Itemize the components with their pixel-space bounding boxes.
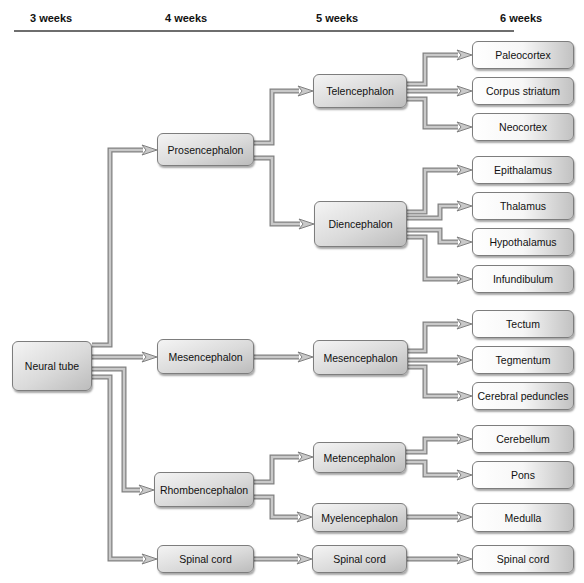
arrowhead-icon — [457, 237, 472, 247]
arrow-rhombencephalon-to-metencephalon — [254, 452, 313, 482]
node-thalamus: Thalamus — [472, 192, 574, 220]
arrowhead-icon — [457, 554, 472, 564]
arrowhead-icon — [457, 122, 472, 132]
node-medulla: Medulla — [472, 503, 574, 532]
node-hypothalamus: Hypothalamus — [472, 228, 574, 256]
node-label: Rhombencephalon — [160, 484, 248, 496]
node-label: Spinal cord — [497, 553, 550, 565]
node-prosencephalon: Prosencephalon — [157, 133, 254, 166]
node-cerebral-peduncles: Cerebral peduncles — [472, 382, 574, 410]
node-label: Metencephalon — [324, 452, 396, 464]
node-neocortex: Neocortex — [472, 113, 574, 141]
arrowhead-icon — [297, 512, 312, 522]
node-label: Prosencephalon — [168, 144, 244, 156]
arrow-neural-tube-to-prosencephalon — [92, 145, 157, 345]
node-label: Mesencephalon — [168, 351, 242, 363]
node-label: Infundibulum — [493, 273, 553, 285]
arrowhead-icon — [457, 470, 472, 480]
node-label: Pons — [511, 469, 535, 481]
arrowhead-icon — [142, 554, 157, 564]
arrowhead-icon — [139, 485, 154, 495]
node-spinal-cord-6: Spinal cord — [472, 545, 574, 573]
arrow-mesencephalon-5-to-tectum — [408, 319, 472, 351]
arrowhead-icon — [299, 219, 314, 229]
arrowhead-icon — [457, 434, 472, 444]
arrowhead-icon — [457, 86, 472, 96]
node-label: Neocortex — [499, 121, 547, 133]
arrow-telencephalon-to-paleocortex — [407, 50, 472, 84]
arrow-prosencephalon-to-diencephalon — [254, 158, 314, 229]
arrow-mesencephalon-5-to-cerebral-peduncles — [408, 367, 472, 401]
node-rhombencephalon: Rhombencephalon — [154, 472, 254, 507]
node-label: Medulla — [505, 512, 542, 524]
node-label: Spinal cord — [333, 553, 386, 565]
node-neural-tube: Neural tube — [12, 341, 92, 391]
node-label: Cerebral peduncles — [477, 390, 568, 402]
node-paleocortex: Paleocortex — [472, 41, 574, 69]
node-label: Corpus striatum — [486, 85, 560, 97]
node-label: Neural tube — [25, 360, 79, 372]
node-label: Cerebellum — [496, 433, 550, 445]
arrowhead-icon — [457, 355, 472, 365]
node-label: Tegmentum — [496, 354, 551, 366]
node-telencephalon: Telencephalon — [313, 74, 407, 108]
arrow-neural-tube-to-rhombencephalon — [92, 369, 154, 495]
arrowhead-icon — [457, 319, 472, 329]
arrow-metencephalon-to-cerebellum — [406, 434, 472, 452]
arrow-rhombencephalon-to-myelencephalon — [254, 497, 312, 522]
node-metencephalon: Metencephalon — [313, 442, 406, 473]
arrow-prosencephalon-to-telencephalon — [254, 86, 313, 143]
node-label: Diencephalon — [328, 218, 392, 230]
node-myelencephalon: Myelencephalon — [312, 503, 407, 532]
node-label: Hypothalamus — [489, 236, 556, 248]
arrow-mesencephalon-5-to-tegmentum — [408, 355, 472, 365]
arrowhead-icon — [298, 452, 313, 462]
node-label: Tectum — [506, 318, 540, 330]
arrowhead-icon — [457, 165, 472, 175]
arrow-spinal-cord-4-to-spinal-cord-5 — [254, 554, 312, 564]
node-cerebellum: Cerebellum — [472, 425, 574, 453]
node-tectum: Tectum — [472, 310, 574, 338]
node-label: Spinal cord — [179, 553, 232, 565]
arrow-telencephalon-to-corpus-striatum — [407, 86, 472, 96]
arrowhead-icon — [457, 201, 472, 211]
arrow-telencephalon-to-neocortex — [407, 99, 472, 132]
node-label: Mesencephalon — [323, 352, 397, 364]
node-label: Epithalamus — [494, 164, 552, 176]
arrowhead-icon — [142, 352, 157, 362]
node-label: Thalamus — [500, 200, 546, 212]
arrowhead-icon — [457, 274, 472, 284]
node-label: Paleocortex — [495, 49, 550, 61]
arrow-spinal-cord-5-to-spinal-cord-6 — [407, 554, 472, 564]
node-mesencephalon-4: Mesencephalon — [157, 339, 254, 374]
node-infundibulum: Infundibulum — [472, 265, 574, 293]
node-pons: Pons — [472, 461, 574, 489]
arrow-metencephalon-to-pons — [406, 462, 472, 480]
node-tegmentum: Tegmentum — [472, 346, 574, 374]
node-spinal-cord-5: Spinal cord — [312, 545, 407, 573]
arrow-mesencephalon-4-to-mesencephalon-5 — [254, 352, 313, 362]
node-label: Myelencephalon — [321, 512, 397, 524]
node-corpus-striatum: Corpus striatum — [472, 77, 574, 105]
node-label: Telencephalon — [326, 85, 394, 97]
arrowhead-icon — [298, 352, 313, 362]
arrow-neural-tube-to-mesencephalon-4 — [92, 352, 157, 362]
arrowhead-icon — [457, 391, 472, 401]
node-mesencephalon-5: Mesencephalon — [313, 340, 408, 375]
arrowhead-icon — [457, 50, 472, 60]
arrowhead-icon — [298, 86, 313, 96]
node-diencephalon: Diencephalon — [314, 201, 407, 247]
node-spinal-cord-4: Spinal cord — [157, 545, 254, 573]
node-epithalamus: Epithalamus — [472, 156, 574, 184]
arrowhead-icon — [142, 145, 157, 155]
arrowhead-icon — [297, 554, 312, 564]
arrow-myelencephalon-to-medulla — [407, 512, 472, 522]
arrowhead-icon — [457, 512, 472, 522]
